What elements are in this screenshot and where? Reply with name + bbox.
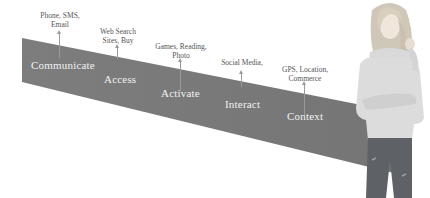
woman-photo (352, 0, 430, 198)
arrow-access (117, 47, 118, 59)
diagram-stage: Phone, SMS, Email Web Search Sites, Buy … (0, 0, 430, 198)
stage-communicate: Communicate (31, 59, 95, 71)
callout-access: Web Search Sites, Buy (88, 27, 148, 45)
stage-access: Access (104, 73, 136, 85)
stage-activate: Activate (161, 87, 200, 99)
callout-activate: Games, Reading, Photo (146, 42, 216, 60)
callout-context: GPS, Location, Commerce (272, 65, 338, 83)
callout-communicate: Phone, SMS, Email (30, 11, 90, 29)
arrow-communicate (59, 33, 60, 58)
arrow-interact (241, 73, 242, 87)
stage-interact: Interact (225, 98, 260, 110)
callout-interact: Social Media, (212, 58, 272, 67)
stage-context: Context (287, 110, 323, 122)
